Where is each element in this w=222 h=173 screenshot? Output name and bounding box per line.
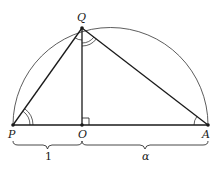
segment-PQ	[13, 28, 82, 125]
point-P	[11, 123, 15, 127]
brace-label-alpha: α	[142, 151, 149, 162]
angle-mark-Q-right-inner	[82, 37, 94, 43]
geometry-diagram	[0, 0, 222, 173]
brace-PO	[13, 141, 82, 149]
label-Q: Q	[77, 12, 86, 23]
angle-mark-P-outer	[25, 109, 33, 125]
label-O: O	[78, 129, 87, 140]
brace-label-1: 1	[45, 151, 52, 162]
brace-OA	[82, 141, 208, 149]
label-A: A	[202, 129, 210, 140]
point-O	[80, 123, 84, 127]
point-Q	[80, 26, 84, 30]
angle-mark-Q-right-outer	[82, 39, 96, 46]
angle-mark-Q-left	[75, 38, 82, 40]
point-A	[206, 123, 210, 127]
angle-mark-A	[194, 117, 197, 126]
segment-QA	[82, 28, 208, 125]
label-P: P	[8, 129, 15, 140]
semicircle-arc	[13, 28, 208, 126]
